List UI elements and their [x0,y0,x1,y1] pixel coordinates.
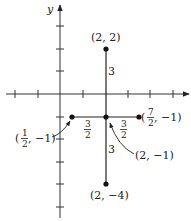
svg-text:(: ( [15,132,19,145]
label-point-top: (2, 2) [91,31,121,44]
svg-text:(: ( [141,111,145,124]
distance-left-horizontal: 3 2 [84,119,91,140]
x-axis [6,90,189,98]
label-point-bottom: (2, −4) [90,189,129,202]
y-axis-label: y [46,3,54,16]
svg-text:2: 2 [22,139,28,149]
distance-right-horizontal: 3 2 [120,119,127,140]
distance-lower-vertical: 3 [108,143,115,156]
point-center [103,114,108,119]
coordinate-diagram: y (2, 2) (2, −1) (2, −4) ( 1 2 , −1) ( 7 [0,0,191,221]
point-bottom [103,181,108,186]
y-axis: y [46,3,64,218]
svg-text:, −1): , −1) [154,111,182,124]
label-point-left: ( 1 2 , −1) [15,128,56,149]
label-point-center: (2, −1) [135,149,174,162]
svg-text:2: 2 [121,130,127,140]
distance-upper-vertical: 3 [108,65,115,78]
svg-text:, −1): , −1) [28,132,56,145]
point-left [69,114,74,119]
svg-text:2: 2 [85,130,91,140]
point-top [103,46,108,51]
svg-text:1: 1 [22,128,28,138]
svg-text:2: 2 [148,118,154,128]
svg-text:3: 3 [85,119,91,129]
label-point-right: ( 7 2 , −1) [141,107,182,128]
svg-text:3: 3 [121,119,127,129]
